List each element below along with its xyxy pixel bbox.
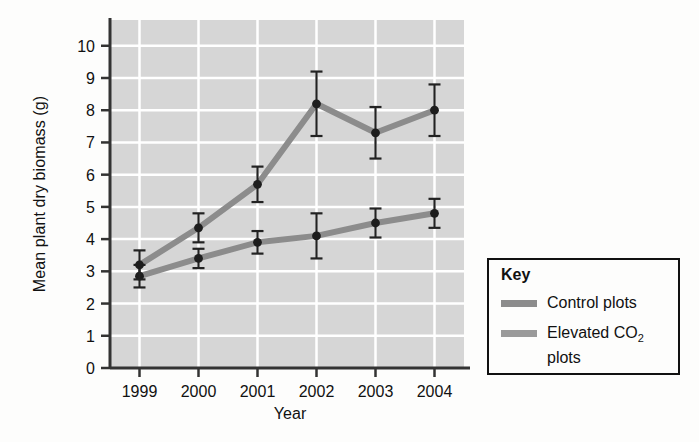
plot-area: 012345678910 199920002001200220032004 [0, 0, 699, 442]
legend-label-co2-subscript: 2 [638, 332, 644, 344]
x-axis-tick-label: 2001 [240, 383, 276, 400]
data-point-marker [371, 219, 380, 228]
x-axis-tick-label: 2004 [417, 383, 453, 400]
data-point-marker [371, 128, 380, 137]
chart-legend: Key Control plots Elevated CO2 plots [487, 258, 680, 375]
y-axis-tick-label: 8 [86, 102, 95, 119]
y-axis-tick-label: 7 [86, 134, 95, 151]
legend-item-control-plots: Control plots [501, 293, 637, 312]
x-axis-tick-label: 2003 [358, 383, 394, 400]
data-point-marker [194, 223, 203, 232]
data-point-marker [312, 231, 321, 240]
legend-swatch-elevated-co2-plots [501, 330, 537, 337]
plot-background [110, 20, 464, 368]
y-axis-tick-label: 10 [77, 38, 95, 55]
data-point-marker [135, 260, 144, 269]
legend-label-elevated-co2-part1: Elevated CO [547, 324, 638, 341]
x-axis-tick-label: 1999 [122, 383, 158, 400]
y-axis-tick-label: 9 [86, 70, 95, 87]
data-point-marker [253, 180, 262, 189]
legend-swatch-control-plots [501, 300, 537, 307]
y-axis-tick-label: 4 [86, 231, 95, 248]
data-point-marker [194, 254, 203, 263]
y-axis-tick-label: 2 [86, 296, 95, 313]
chart-figure: Mean plant dry biomass (g) Year 01234567… [0, 0, 699, 442]
legend-title: Key [501, 266, 530, 284]
data-point-marker [312, 99, 321, 108]
y-axis-tick-label: 0 [86, 360, 95, 377]
legend-label-elevated-co2-part2: plots [547, 349, 581, 366]
legend-item-elevated-co2-plots: Elevated CO2 plots [501, 323, 677, 367]
data-point-marker [430, 106, 439, 115]
y-axis-tick-label: 6 [86, 167, 95, 184]
x-axis-tick-label: 2000 [181, 383, 217, 400]
data-point-marker [253, 238, 262, 247]
y-axis-tick-label: 1 [86, 328, 95, 345]
x-axis-tick-label: 2002 [299, 383, 335, 400]
legend-label-elevated-co2-plots: Elevated CO2 plots [547, 323, 677, 367]
y-axis-tick-label: 3 [86, 263, 95, 280]
legend-label-control-plots: Control plots [547, 293, 637, 312]
data-point-marker [430, 209, 439, 218]
y-axis-tick-label: 5 [86, 199, 95, 216]
